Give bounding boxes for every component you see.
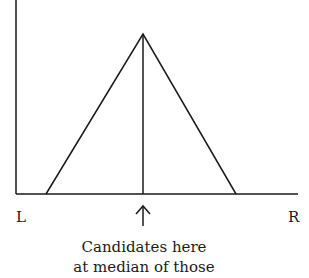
axis-label-left: L <box>16 210 26 225</box>
caption-line-1: Candidates here <box>44 237 244 257</box>
up-arrow-icon <box>136 206 150 226</box>
axis-label-right: R <box>288 210 299 225</box>
distribution-triangle <box>46 34 236 194</box>
caption-line-2: at median of those <box>44 257 244 277</box>
